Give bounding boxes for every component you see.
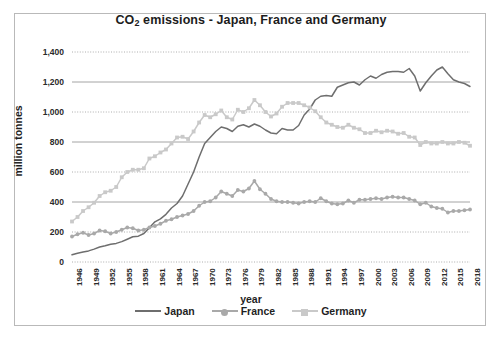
data-point (81, 209, 85, 213)
data-point (457, 140, 461, 144)
y-tick-label: 400 (20, 197, 64, 207)
series-line-japan (72, 67, 470, 255)
y-tick-label: 1,200 (20, 77, 64, 87)
legend-swatch (135, 310, 161, 312)
data-point (291, 101, 295, 105)
data-point (92, 232, 96, 236)
data-point (335, 125, 339, 129)
data-point (313, 109, 317, 113)
data-point (120, 175, 124, 179)
x-tick-label: 1982 (274, 268, 283, 286)
legend-item-japan[interactable]: Japan (135, 305, 194, 317)
y-tick-label: 1,400 (20, 47, 64, 57)
data-point (87, 233, 91, 237)
data-point (341, 126, 345, 130)
data-point (374, 196, 378, 200)
data-point (98, 229, 102, 233)
legend-item-germany[interactable]: Germany (292, 305, 367, 317)
data-point (346, 199, 350, 203)
x-tick-label: 1967 (191, 268, 200, 286)
y-tick-label: 0 (20, 257, 64, 267)
data-point (92, 201, 96, 205)
data-point (170, 217, 174, 221)
data-point (253, 179, 257, 183)
data-point (341, 202, 345, 206)
x-tick-label: 1973 (224, 268, 233, 286)
legend-marker (221, 309, 228, 316)
data-point (70, 220, 74, 224)
data-point (136, 168, 140, 172)
data-point (429, 142, 433, 146)
data-point (81, 231, 85, 235)
data-point (396, 132, 400, 136)
data-point (164, 148, 168, 152)
legend-swatch (212, 310, 238, 312)
data-point (87, 205, 91, 209)
data-point (468, 144, 472, 148)
data-point (358, 127, 362, 131)
data-point (407, 135, 411, 139)
data-point (280, 200, 284, 204)
data-point (335, 202, 339, 206)
data-point (324, 199, 328, 203)
data-point (159, 151, 163, 155)
data-point (214, 112, 218, 116)
legend-label: Japan (164, 305, 194, 317)
x-tick-label: 1985 (291, 268, 300, 286)
data-point (418, 143, 422, 147)
data-point (236, 188, 240, 192)
data-point (70, 235, 74, 239)
data-point (463, 141, 467, 145)
data-point (297, 202, 301, 206)
legend-marker (301, 309, 308, 316)
data-point (346, 123, 350, 127)
data-point (164, 219, 168, 223)
data-point (308, 106, 312, 110)
data-point (192, 209, 196, 213)
x-tick-label: 2012 (440, 268, 449, 286)
legend-swatch (292, 310, 318, 312)
data-point (258, 103, 262, 107)
data-point (391, 130, 395, 134)
data-point (330, 202, 334, 206)
x-tick-label: 1970 (208, 268, 217, 286)
x-tick-label: 1958 (141, 268, 150, 286)
data-point (363, 131, 367, 135)
data-point (302, 103, 306, 107)
plot-area: million tonnes year 02004006008001,0001,… (0, 0, 502, 345)
data-point (208, 115, 212, 119)
data-point (241, 190, 245, 194)
data-point (275, 112, 279, 116)
data-point (435, 142, 439, 146)
data-point (280, 105, 284, 109)
data-point (247, 187, 251, 191)
x-tick-label: 1991 (324, 268, 333, 286)
data-point (440, 140, 444, 144)
data-point (197, 204, 201, 208)
data-point (153, 224, 157, 228)
legend-item-france[interactable]: France (212, 305, 275, 317)
x-tick-label: 2000 (374, 268, 383, 286)
data-point (181, 214, 185, 218)
data-point (369, 197, 373, 201)
data-point (269, 197, 273, 201)
data-point (114, 185, 118, 189)
data-point (153, 154, 157, 158)
data-point (275, 199, 279, 203)
data-point (319, 115, 323, 119)
data-point (380, 130, 384, 134)
data-point (319, 196, 323, 200)
data-point (468, 208, 472, 212)
data-point (297, 101, 301, 105)
x-tick-label: 1961 (158, 268, 167, 286)
data-point (103, 229, 107, 233)
data-point (286, 101, 290, 105)
data-point (418, 202, 422, 206)
data-point (385, 129, 389, 133)
data-point (236, 108, 240, 112)
data-point (352, 126, 356, 130)
data-point (197, 121, 201, 125)
data-point (457, 209, 461, 213)
data-point (147, 157, 151, 161)
x-tick-label: 1997 (357, 268, 366, 286)
